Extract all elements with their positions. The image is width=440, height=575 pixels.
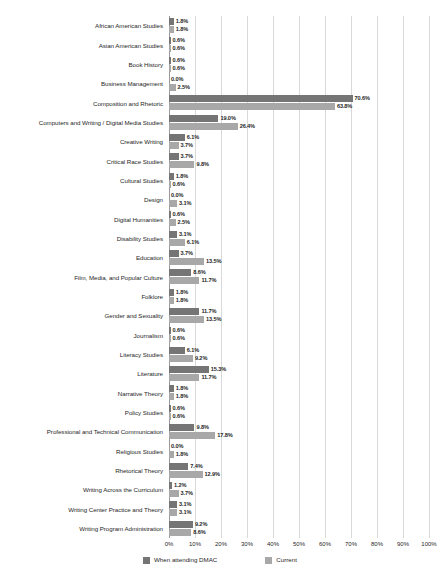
bar: [169, 211, 171, 218]
category-label: Writing Program Administration: [0, 525, 163, 532]
bar-row: 0.6%: [169, 211, 429, 218]
category-label: Folklore: [0, 293, 163, 300]
bar-row: 1.8%: [169, 26, 429, 33]
legend-item[interactable]: Current: [265, 556, 297, 564]
category-label: Literacy Studies: [0, 351, 163, 358]
bar-row: 1.8%: [169, 393, 429, 400]
bar-row: 3.7%: [169, 250, 429, 257]
bar: [169, 501, 177, 508]
bar: [169, 115, 218, 122]
bar-value-label: 2.5%: [178, 84, 190, 91]
bar-row: 6.1%: [169, 347, 429, 354]
category-label: Religious Studies: [0, 448, 163, 455]
bar-value-label: 7.4%: [190, 463, 202, 470]
bar-value-label: 0.6%: [173, 335, 185, 342]
bar-value-label: 0.0%: [171, 76, 183, 83]
bar: [169, 84, 176, 91]
bar-value-label: 11.7%: [201, 277, 216, 284]
bar: [169, 181, 171, 188]
bar-value-label: 2.5%: [178, 219, 190, 226]
bar-row: 1.8%: [169, 173, 429, 180]
bar-group: 0.6%0.6%: [169, 403, 429, 422]
legend-item[interactable]: When attending DMAC: [143, 556, 217, 564]
legend-label: Current: [276, 556, 297, 564]
gridline: [429, 16, 430, 538]
bar-value-label: 1.8%: [176, 289, 188, 296]
bar-row: 11.7%: [169, 277, 429, 284]
bar: [169, 250, 179, 257]
bar-value-label: 0.6%: [173, 211, 185, 218]
bar-value-label: 0.6%: [173, 181, 185, 188]
bar: [169, 393, 174, 400]
bar: [169, 18, 174, 25]
bar-value-label: 63.8%: [337, 103, 352, 110]
bar-row: 15.3%: [169, 366, 429, 373]
bar-group: 8.6%11.7%: [169, 267, 429, 286]
bar-value-label: 8.6%: [193, 269, 205, 276]
bar-value-label: 0.6%: [173, 37, 185, 44]
bar-group: 1.8%0.6%: [169, 171, 429, 190]
bar-value-label: 1.8%: [176, 385, 188, 392]
bar-value-label: 3.1%: [179, 231, 191, 238]
bar-group: 19.0%26.4%: [169, 113, 429, 132]
bar: [169, 327, 171, 334]
bar: [169, 142, 179, 149]
bar-group: 0.0%1.8%: [169, 441, 429, 460]
bar: [169, 95, 353, 102]
bar-group: 3.7%13.5%: [169, 248, 429, 267]
bar: [169, 219, 176, 226]
bar-value-label: 1.2%: [174, 482, 186, 489]
bar-row: 1.8%: [169, 451, 429, 458]
bar-row: 0.6%: [169, 413, 429, 420]
legend-label: When attending DMAC: [154, 556, 217, 564]
bar-group: 0.6%2.5%: [169, 209, 429, 228]
bar: [169, 471, 203, 478]
bar: [169, 45, 171, 52]
bar-value-label: 0.6%: [173, 65, 185, 72]
x-axis-tick-label: 20%: [215, 540, 227, 548]
bar: [169, 424, 194, 431]
bar-value-label: 9.8%: [196, 161, 208, 168]
bar-row: 6.1%: [169, 134, 429, 141]
bar-row: 0.0%: [169, 443, 429, 450]
bar-value-label: 1.8%: [176, 297, 188, 304]
bar-value-label: 1.8%: [176, 173, 188, 180]
bar: [169, 308, 199, 315]
bar: [169, 153, 179, 160]
bar: [169, 103, 335, 110]
bar: [169, 374, 199, 381]
x-axis-tick-label: 10%: [189, 540, 201, 548]
bar: [169, 65, 171, 72]
bar-value-label: 0.6%: [173, 405, 185, 412]
x-axis-tick-label: 50%: [293, 540, 305, 548]
bar: [169, 231, 177, 238]
bar-value-label: 13.5%: [206, 258, 221, 265]
bar: [169, 200, 177, 207]
bar-row: 3.1%: [169, 501, 429, 508]
bar-group: 15.3%11.7%: [169, 364, 429, 383]
bar-value-label: 3.7%: [181, 490, 193, 497]
bar-group: 1.8%1.8%: [169, 383, 429, 402]
bar: [169, 289, 174, 296]
bar-value-label: 9.2%: [195, 521, 207, 528]
bar-value-label: 3.1%: [179, 509, 191, 516]
bar-row: 1.8%: [169, 385, 429, 392]
bar-row: 9.2%: [169, 355, 429, 362]
bar-group: 0.0%2.5%: [169, 74, 429, 93]
x-axis-tick-label: 100%: [421, 540, 436, 548]
bar-row: 0.6%: [169, 335, 429, 342]
bar-row: 19.0%: [169, 115, 429, 122]
legend-swatch-icon: [265, 557, 272, 564]
bar: [169, 239, 185, 246]
bar-value-label: 0.6%: [173, 45, 185, 52]
bar-row: 12.9%: [169, 471, 429, 478]
legend-swatch-icon: [143, 557, 150, 564]
bar-row: 2.5%: [169, 84, 429, 91]
bar-value-label: 11.7%: [201, 374, 216, 381]
category-label: Book History: [0, 61, 163, 68]
bar-value-label: 12.9%: [205, 471, 220, 478]
category-label: Rhetorical Theory: [0, 467, 163, 474]
bar: [169, 57, 171, 64]
bar-value-label: 1.8%: [176, 18, 188, 25]
bar: [169, 134, 185, 141]
